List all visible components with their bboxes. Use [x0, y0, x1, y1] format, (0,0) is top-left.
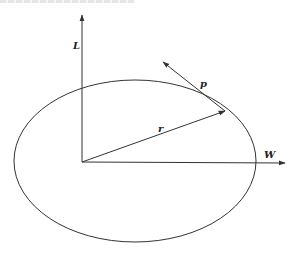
r-vector-arrow — [82, 111, 225, 162]
W-axis-label: W — [264, 149, 277, 160]
W-axis-arrow — [82, 162, 285, 163]
orbit-ellipse — [14, 80, 256, 242]
p-vector-label: p — [200, 78, 207, 89]
p-vector-arrow — [163, 62, 225, 111]
r-vector-label: r — [158, 123, 164, 134]
L-axis-label: L — [72, 40, 80, 51]
orbit-diagram: L W r p — [0, 0, 294, 253]
